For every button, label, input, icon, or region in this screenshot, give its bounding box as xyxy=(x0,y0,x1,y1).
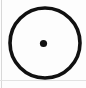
figure-canvas xyxy=(0,0,86,88)
center-point-shape xyxy=(40,40,47,47)
circle-diagram xyxy=(0,0,86,88)
